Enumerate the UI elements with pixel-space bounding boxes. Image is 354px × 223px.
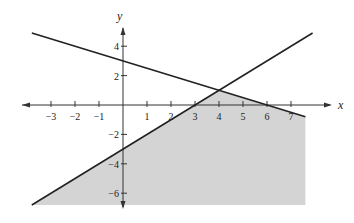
y-axis-up-arrow-icon: [121, 27, 126, 35]
y-tick-label: 4: [114, 41, 119, 52]
x-axis-right-arrow-icon: [324, 103, 332, 108]
x-tick-label: 7: [289, 111, 294, 122]
x-tick-label: 6: [265, 111, 270, 122]
x-tick-label: 2: [169, 111, 174, 122]
x-tick-label: −3: [46, 111, 57, 122]
y-tick-label: −6: [108, 188, 119, 199]
feasible-region: [32, 90, 306, 205]
y-axis-down-arrow-icon: [121, 201, 126, 209]
y-tick-label: 2: [114, 71, 119, 82]
x-tick-label: 4: [217, 111, 222, 122]
x-axis-left-arrow-icon: [22, 103, 30, 108]
boundary-line-1: [32, 33, 306, 117]
x-axis-label: x: [337, 98, 344, 112]
x-tick-label: 1: [145, 111, 150, 122]
x-tick-label: −1: [94, 111, 105, 122]
x-tick-label: 3: [193, 111, 198, 122]
y-tick-label: −4: [108, 159, 119, 170]
y-axis-label: y: [116, 9, 123, 23]
x-tick-label: −2: [70, 111, 81, 122]
y-tick-label: −2: [108, 129, 119, 140]
x-tick-label: 5: [241, 111, 246, 122]
chart: xy−3−2−1123456742−2−4−6: [0, 0, 354, 223]
shaded-region: [32, 90, 306, 205]
